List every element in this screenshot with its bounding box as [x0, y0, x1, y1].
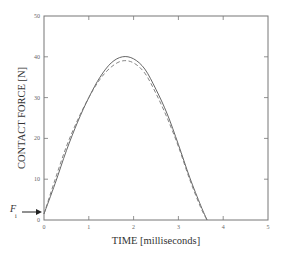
x-tick-label: 1: [87, 224, 90, 230]
y-tick-label: 50: [34, 13, 40, 19]
axis-ticks: [44, 16, 268, 220]
x-tick-label: 4: [222, 224, 225, 230]
dashed-series-line: [44, 61, 207, 220]
chart: 01234501020304050 TIME [milliseconds] CO…: [0, 0, 285, 259]
y-tick-label: 0: [37, 217, 40, 223]
y-tick-label: 30: [34, 95, 40, 101]
x-tick-label: 0: [43, 224, 46, 230]
tick-labels: 01234501020304050: [34, 13, 270, 230]
y-tick-label: 40: [34, 54, 40, 60]
x-tick-label: 2: [132, 224, 135, 230]
plot-area: 01234501020304050: [34, 13, 270, 230]
fi-subscript: i: [15, 213, 17, 219]
x-tick-label: 3: [177, 224, 180, 230]
arrow-head-icon: [36, 209, 42, 215]
x-tick-label: 5: [267, 224, 270, 230]
solid-series-line: [44, 57, 207, 220]
x-axis-label: TIME [milliseconds]: [112, 235, 200, 246]
y-tick-label: 20: [34, 135, 40, 141]
plot-frame: [44, 16, 268, 220]
y-axis-label: CONTACT FORCE [N]: [16, 67, 27, 169]
y-tick-label: 10: [34, 176, 40, 182]
